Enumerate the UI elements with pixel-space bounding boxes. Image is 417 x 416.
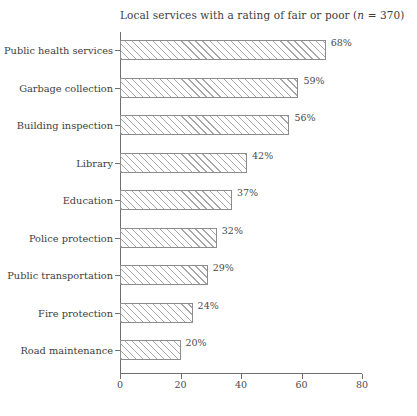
y-axis-tick xyxy=(115,200,120,201)
y-axis-tick xyxy=(115,125,120,126)
y-axis-tick xyxy=(115,350,120,351)
y-axis-label-4: Library xyxy=(76,157,113,168)
bar-8 xyxy=(120,303,193,323)
bar-value-label: 24% xyxy=(198,299,219,310)
bar-value-label: 56% xyxy=(294,112,315,123)
y-axis-label-2: Garbage collection xyxy=(19,82,113,93)
y-axis-label-6: Police protection xyxy=(29,232,113,243)
bar-value-label: 59% xyxy=(303,74,324,85)
x-axis-tick-label: 0 xyxy=(117,379,123,390)
y-axis-tick xyxy=(115,275,120,276)
bar-chart: Local services with a rating of fair or … xyxy=(0,0,417,416)
bar-value-label: 32% xyxy=(222,224,243,235)
y-axis-tick xyxy=(115,163,120,164)
bar-value-label: 37% xyxy=(237,187,258,198)
bar-row: 56% xyxy=(120,107,362,145)
y-axis-label-1: Public health services xyxy=(4,45,113,56)
bar-row: 20% xyxy=(120,332,362,370)
y-axis-label-5: Education xyxy=(63,195,113,206)
bar-row: 59% xyxy=(120,70,362,108)
x-axis-tick-label: 40 xyxy=(235,379,247,390)
y-axis-labels: Public health servicesGarbage collection… xyxy=(0,32,113,374)
x-axis-tick-label: 80 xyxy=(356,379,368,390)
y-axis-label-3: Building inspection xyxy=(17,120,113,131)
bar-row: 32% xyxy=(120,220,362,258)
bar-row: 68% xyxy=(120,32,362,70)
x-axis-tick-label: 60 xyxy=(295,379,307,390)
bar-6 xyxy=(120,228,217,248)
bar-7 xyxy=(120,265,208,285)
bar-value-label: 42% xyxy=(252,149,273,160)
y-axis-label-7: Public transportation xyxy=(7,270,113,281)
x-axis-labels: 020406080 xyxy=(120,379,370,395)
bar-1 xyxy=(120,40,326,60)
plot-area: 68%59%56%42%37%32%29%24%20% xyxy=(120,32,362,374)
bar-9 xyxy=(120,340,181,360)
y-axis-label-9: Road maintenance xyxy=(20,345,113,356)
bar-row: 29% xyxy=(120,257,362,295)
bar-row: 42% xyxy=(120,145,362,183)
bar-4 xyxy=(120,153,247,173)
bar-value-label: 68% xyxy=(331,37,352,48)
y-axis-label-8: Fire protection xyxy=(38,307,113,318)
bar-2 xyxy=(120,78,298,98)
bar-5 xyxy=(120,190,232,210)
y-axis-tick xyxy=(115,313,120,314)
x-axis-tick-label: 20 xyxy=(174,379,186,390)
y-axis-tick xyxy=(115,238,120,239)
y-axis-tick xyxy=(115,88,120,89)
bar-3 xyxy=(120,115,289,135)
chart-title-prefix: Local services with a rating of fair or … xyxy=(120,9,357,21)
bar-row: 24% xyxy=(120,295,362,333)
bar-value-label: 20% xyxy=(186,337,207,348)
bar-row: 37% xyxy=(120,182,362,220)
chart-title: Local services with a rating of fair or … xyxy=(120,9,405,21)
chart-title-suffix: = 370) xyxy=(364,9,404,21)
bar-value-label: 29% xyxy=(213,262,234,273)
y-axis-tick xyxy=(115,50,120,51)
